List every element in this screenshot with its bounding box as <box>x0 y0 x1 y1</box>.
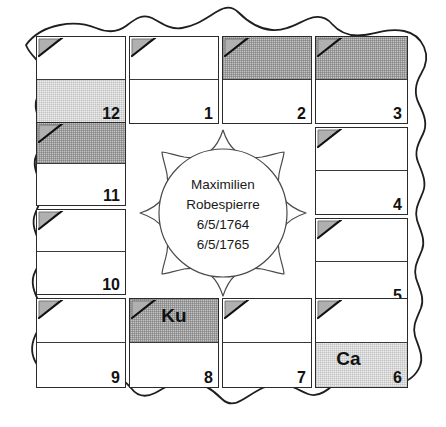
house-cell-8[interactable]: Ku8 <box>129 298 219 388</box>
house-cell-3[interactable]: 3 <box>315 36 408 124</box>
house-number-label: 11 <box>103 188 120 204</box>
house-cell-10[interactable]: 10 <box>36 209 126 295</box>
house-10-upper-half <box>37 210 125 252</box>
house-3-upper-half <box>316 37 407 80</box>
house-1-upper-half <box>130 37 218 80</box>
native-details: Maximilien Robespierre 6/5/1764 6/5/1765 <box>132 126 314 304</box>
house-number-label: 1 <box>204 106 213 122</box>
house-cell-5[interactable]: 5 <box>315 218 408 306</box>
house-9-upper-half <box>37 299 125 343</box>
house-number-label: 7 <box>297 370 306 386</box>
house-number-label: 12 <box>102 106 120 122</box>
house-12-upper-half <box>37 37 125 80</box>
house-number-label: 6 <box>393 370 402 386</box>
house-cell-4[interactable]: 4 <box>315 127 408 215</box>
native-name-line-2: Robespierre <box>186 196 260 214</box>
house-number-label: 3 <box>393 106 402 122</box>
house-6-upper-half <box>316 299 407 343</box>
house-cell-1[interactable]: 1 <box>129 36 219 124</box>
house-5-upper-half <box>316 219 407 262</box>
house-number-label: 2 <box>297 106 306 122</box>
house-6-lower-glyph: Ca <box>316 349 407 368</box>
house-number-label: 9 <box>111 370 120 386</box>
house-11-upper-half <box>37 123 125 164</box>
house-cell-9[interactable]: 9 <box>36 298 126 388</box>
house-8-upper-glyph: Ku <box>130 306 218 325</box>
native-date-line-1: 6/5/1764 <box>197 216 250 234</box>
chart-canvas: 12 1 2 3 4 5 Ca6 7 Ku8 9 10 11 Maximilie… <box>0 0 446 427</box>
house-4-upper-half <box>316 128 407 171</box>
house-8-upper-half: Ku <box>130 299 218 343</box>
house-cell-2[interactable]: 2 <box>222 36 312 124</box>
house-number-label: 10 <box>102 277 120 293</box>
house-number-label: 4 <box>393 197 402 213</box>
native-date-line-2: 6/5/1765 <box>197 236 250 254</box>
house-cell-12[interactable]: 12 <box>36 36 126 124</box>
center-medallion: Maximilien Robespierre 6/5/1764 6/5/1765 <box>132 126 314 304</box>
native-name-line-1: Maximilien <box>191 176 255 194</box>
house-7-upper-half <box>223 299 311 343</box>
house-cell-11[interactable]: 11 <box>36 122 126 206</box>
house-cell-6[interactable]: Ca6 <box>315 298 408 388</box>
house-cell-7[interactable]: 7 <box>222 298 312 388</box>
house-2-upper-half <box>223 37 311 80</box>
house-number-label: 8 <box>204 370 213 386</box>
